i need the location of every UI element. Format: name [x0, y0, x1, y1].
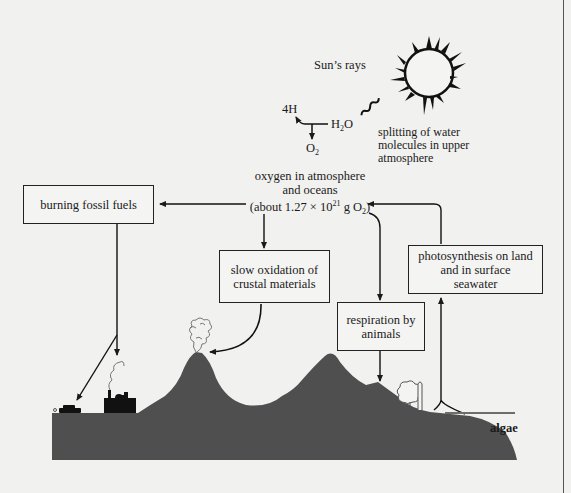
- arrow-to-volcano: [210, 304, 261, 352]
- photosynthesis-line2: and in surface: [440, 263, 510, 277]
- box-slow-oxidation: slow oxidation of crustal materials: [219, 250, 330, 303]
- box-photosynthesis: photosynthesis on land and in surface se…: [408, 245, 543, 294]
- car-icon: [54, 405, 82, 413]
- box-respiration: respiration by animals: [337, 302, 425, 351]
- reservoir-line1: oxygen in atmosphere: [240, 169, 380, 183]
- splitting-caption-line3: atmosphere: [378, 152, 469, 165]
- reservoir-amount: (about 1.27 × 10: [250, 200, 333, 214]
- box-burning-fossil-fuels: burning fossil fuels: [23, 185, 154, 224]
- oxidation-line2: crustal materials: [233, 277, 315, 291]
- algae-label: algae: [490, 421, 518, 435]
- page-edge-line: [563, 0, 564, 493]
- photosynthesis-branch: [434, 318, 465, 414]
- water-base: H: [331, 117, 340, 131]
- volcano-smoke-icon: [190, 318, 212, 352]
- sun-rays-label: Sun’s rays: [314, 58, 366, 72]
- photosynthesis-line3: seawater: [454, 277, 498, 291]
- respiration-line1: respiration by: [346, 313, 415, 327]
- o2-subscript: 2: [315, 148, 319, 157]
- reservoir-line2: and oceans: [240, 183, 380, 197]
- o2-base: O: [306, 141, 315, 155]
- splitting-caption: splitting of water molecules in upper at…: [378, 126, 469, 165]
- factory-icon: [104, 390, 136, 413]
- hydrogen-label: 4H: [282, 102, 297, 116]
- arrow-to-4h: [296, 117, 328, 124]
- oxidation-line1: slow oxidation of: [231, 263, 319, 277]
- reservoir-unit: g O: [341, 200, 363, 214]
- oxygen-reservoir-label: oxygen in atmosphere and oceans (about 1…: [240, 169, 380, 219]
- sun-icon: [390, 36, 466, 115]
- oxygen-cycle-diagram: Sun’s rays 4H H2O O2 splitting of water …: [0, 0, 571, 493]
- factory-smoke-icon: [109, 362, 124, 391]
- oxygen-product-label: O2: [306, 141, 319, 160]
- arrow-to-respiration: [369, 213, 380, 300]
- burning-label: burning fossil fuels: [40, 198, 137, 212]
- water-tail: O: [344, 117, 353, 131]
- water-label: H2O: [331, 117, 353, 136]
- wavy-ray-icon: [359, 98, 381, 116]
- reservoir-close: ): [366, 200, 370, 214]
- reservoir-exponent: 21: [333, 199, 341, 208]
- respiration-line2: animals: [362, 327, 401, 341]
- reservoir-line3: (about 1.27 × 1021 g O2): [240, 197, 380, 219]
- photosynthesis-line1: photosynthesis on land: [418, 249, 533, 263]
